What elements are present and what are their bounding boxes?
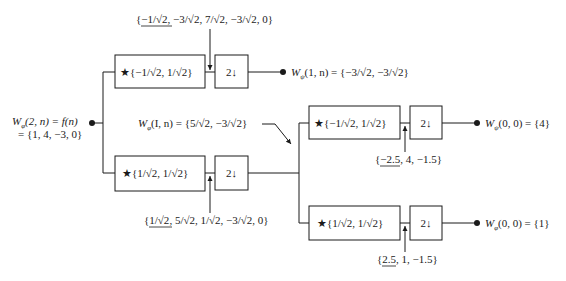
stage1-lowpass-output-label: Wφ(I, n) = {5/√2, −3/√2} bbox=[138, 117, 247, 132]
input-node: Wφ(2, n) = f(n) = {1, 4, −3, 0} bbox=[12, 115, 95, 140]
filter-bank-diagram: Wφ(2, n) = f(n) = {1, 4, −3, 0} ★{−1/√2,… bbox=[0, 0, 566, 281]
stage1-highpass-conv-output: {−1/√2, −3/√2, 7/√2, −3/√2, 0} bbox=[136, 13, 273, 25]
stage2-highpass-conv-output: {−2.5, 4, −1.5} bbox=[375, 153, 442, 165]
stage2-lowpass-output-dot bbox=[474, 220, 480, 226]
stage1-lowpass-downsample-label: 2↓ bbox=[226, 167, 237, 179]
stage2-highpass-output-dot bbox=[474, 120, 480, 126]
stage2-highpass-output-label: Wψ(0, 0) = {4} bbox=[485, 117, 550, 132]
stage1-lowpass-conv-output: {1/√2, 5/√2, 1/√2, −3/√2, 0} bbox=[144, 214, 269, 226]
stage2-lowpass-conv-output: {2.5, 1, −1.5} bbox=[377, 253, 438, 265]
stage2-lowpass-filter-label: ★{1/√2, 1/√2} bbox=[317, 217, 383, 229]
stage2-lowpass-downsample-label: 2↓ bbox=[421, 217, 432, 229]
input-label-line2: = {1, 4, −3, 0} bbox=[18, 128, 82, 140]
stage1-highpass-downsample-label: 2↓ bbox=[226, 66, 237, 78]
stage1-highpass-filter-label: ★{−1/√2, 1/√2} bbox=[120, 66, 192, 78]
stage1-lowpass-filter-label: ★{1/√2, 1/√2} bbox=[122, 167, 188, 179]
stage2-lowpass-output-label: Wφ(0, 0) = {1} bbox=[485, 217, 550, 232]
stage2-highpass-downsample-label: 2↓ bbox=[421, 117, 432, 129]
stage2-highpass-filter-label: ★{−1/√2, 1/√2} bbox=[314, 117, 386, 129]
stage1-highpass-output-dot bbox=[280, 69, 286, 75]
stage1-highpass-output-label: Wψ(1, n) = {−3/√2, −3/√2} bbox=[291, 66, 409, 81]
stage1-lowpass-output-pointer bbox=[262, 124, 291, 144]
